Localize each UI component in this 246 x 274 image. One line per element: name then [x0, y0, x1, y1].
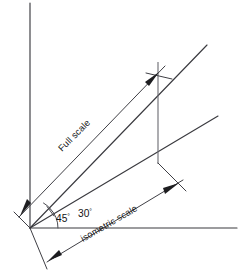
angle-30-value: 30 [78, 208, 90, 219]
isometric-scale-extension-line [30, 228, 47, 269]
isometric-scale-diagram: Full scale isometric scale 45° 30° [0, 0, 246, 274]
full-scale-dimension-tick [146, 73, 172, 79]
angle-45-label: 45° [56, 213, 70, 225]
angle-45-value: 45 [56, 213, 68, 224]
diagram-canvas: Full scale isometric scale 45° 30° [0, 0, 246, 274]
angle-30-label: 30° [78, 208, 92, 220]
angle-arc-45 [44, 203, 51, 209]
isometric-scale-arrowhead-upper [163, 183, 179, 194]
full-scale-line [30, 45, 207, 228]
full-scale-label: Full scale [56, 118, 92, 154]
angle-30-degree-symbol: ° [89, 208, 92, 215]
full-scale-dimension-line [19, 66, 165, 217]
angle-45-degree-symbol: ° [67, 213, 70, 220]
full-scale-arrowhead-lower [20, 199, 31, 216]
isometric-scale-arrowhead-lower [48, 250, 62, 261]
